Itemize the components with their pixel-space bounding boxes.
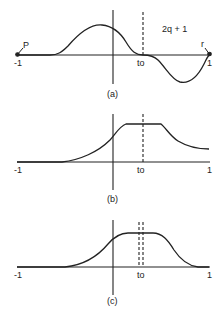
x-max-label-a: 1 <box>207 58 212 68</box>
panel-b <box>17 114 210 190</box>
annotation-2q1: 2q + 1 <box>162 24 187 34</box>
x-max-label-c: 1 <box>207 270 212 280</box>
panel-a <box>16 10 212 84</box>
t0-label-a: to <box>137 58 145 68</box>
caption-b: (b) <box>107 194 118 204</box>
caption-c: (c) <box>107 296 118 306</box>
x-max-label-b: 1 <box>207 165 212 175</box>
caption-a: (a) <box>107 89 118 99</box>
t0-label-b: to <box>137 165 145 175</box>
panel-c <box>17 220 210 295</box>
right-marker-label: r <box>201 39 204 49</box>
x-min-label-b: -1 <box>14 165 22 175</box>
left-marker-label: P <box>23 40 29 50</box>
figure: P r 2q + 1 -1 1 to (a) -1 1 to (b) -1 1 … <box>0 0 224 324</box>
t0-label-c: to <box>137 270 145 280</box>
x-min-label-c: -1 <box>14 270 22 280</box>
x-min-label-a: -1 <box>14 58 22 68</box>
